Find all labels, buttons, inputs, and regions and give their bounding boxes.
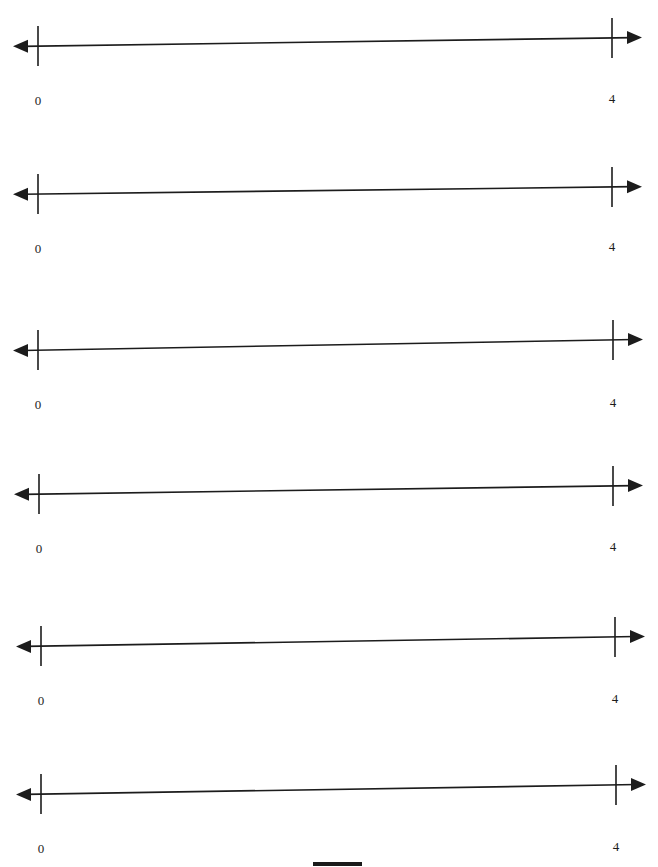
number-line-5[interactable]: 04 [0,616,658,676]
arrow-right-icon [627,31,642,44]
tick-label-zero: 0 [28,398,48,411]
axis-line [23,486,634,495]
tick-label-zero: 0 [28,242,48,255]
number-line-1[interactable]: 04 [0,18,658,78]
axis-line [22,187,633,195]
arrow-left-icon [13,344,28,357]
tick-label-four: 4 [602,240,622,253]
arrow-left-icon [13,188,28,201]
axis-line [22,38,633,47]
number-line-3[interactable]: 04 [0,320,658,380]
page-edge-mark [313,862,362,866]
number-line-graphic [0,764,658,824]
worksheet-canvas: 040404040404 [0,0,658,867]
arrow-left-icon [16,640,31,653]
arrow-left-icon [16,788,31,801]
arrow-left-icon [13,40,28,53]
tick-label-four: 4 [605,692,625,705]
number-line-graphic [0,616,658,676]
number-line-graphic [0,18,658,78]
number-line-4[interactable]: 04 [0,465,658,525]
axis-line [25,785,637,795]
arrow-left-icon [14,488,29,501]
axis-line [22,339,634,350]
tick-label-four: 4 [602,92,622,105]
number-line-6[interactable]: 04 [0,764,658,824]
arrow-right-icon [628,333,643,346]
tick-label-four: 4 [606,840,626,853]
tick-label-four: 4 [603,396,623,409]
arrow-right-icon [631,778,646,791]
axis-line [25,637,636,647]
tick-label-zero: 0 [31,842,51,855]
number-line-graphic [0,465,658,525]
number-line-graphic [0,166,658,226]
arrow-right-icon [627,180,642,193]
tick-label-zero: 0 [28,94,48,107]
arrow-right-icon [630,630,645,643]
tick-label-zero: 0 [31,694,51,707]
tick-label-four: 4 [603,540,623,553]
number-line-graphic [0,320,658,380]
tick-label-zero: 0 [29,542,49,555]
number-line-2[interactable]: 04 [0,166,658,226]
arrow-right-icon [628,479,643,492]
